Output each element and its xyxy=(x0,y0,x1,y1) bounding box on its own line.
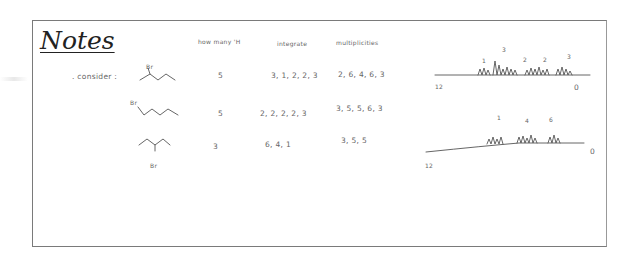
axis-left-label: 12 xyxy=(435,83,443,90)
page-title: Notes xyxy=(40,26,115,55)
peak-label: 2 xyxy=(543,56,547,63)
consider-label: . consider : xyxy=(72,72,117,81)
peak-label: 1 xyxy=(497,114,501,121)
how-many-h-value: 5 xyxy=(218,109,223,118)
multiplicities-value: 3, 5, 5, 6, 3 xyxy=(336,104,383,113)
peak-label: 3 xyxy=(567,53,571,60)
header-multiplicities: multiplicities xyxy=(336,39,378,46)
peak-label: 3 xyxy=(502,46,506,53)
spectrum-2-trace-icon xyxy=(424,128,594,154)
axis-right-label: 0 xyxy=(590,147,595,156)
axis-left-label: 12 xyxy=(425,162,433,169)
integrate-value: 6, 4, 1 xyxy=(265,140,291,149)
molecule-1-bromopentane-icon xyxy=(136,103,182,121)
molecule-3-bromopentane-icon xyxy=(137,137,173,155)
multiplicities-value: 2, 6, 4, 6, 3 xyxy=(338,70,385,79)
peak-label: 4 xyxy=(525,117,529,124)
axis-right-label: 0 xyxy=(574,83,579,92)
header-integrate: integrate xyxy=(277,40,307,47)
integrate-value: 3, 1, 2, 2, 3 xyxy=(271,71,318,80)
integrate-value: 2, 2, 2, 2, 3 xyxy=(260,109,307,118)
how-many-h-value: 3 xyxy=(213,142,218,151)
peak-label: 2 xyxy=(523,56,527,63)
multiplicities-value: 3, 5, 5 xyxy=(341,136,367,145)
spectrum-1-trace-icon xyxy=(430,55,600,77)
how-many-h-value: 5 xyxy=(218,71,223,80)
molecule-2-bromopentane-icon xyxy=(138,66,178,86)
header-how-many-h: how many 'H xyxy=(198,38,241,45)
peak-label: 1 xyxy=(482,57,486,64)
scan-artifact xyxy=(0,77,28,81)
substituent-label: Br xyxy=(150,162,157,169)
peak-label: 6 xyxy=(549,116,553,123)
